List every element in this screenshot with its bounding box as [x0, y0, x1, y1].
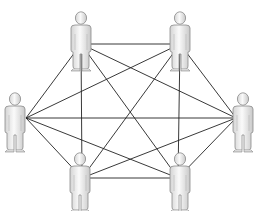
person-icon-bottom-right [170, 153, 190, 211]
edge-right-bottom-left [82, 118, 236, 178]
edge-top-left-bottom-right [81, 44, 178, 178]
edge-top-right-bottom-left [82, 44, 180, 178]
edge-top-right-left [26, 44, 180, 118]
person-icon-right [233, 93, 253, 152]
network-diagram [0, 0, 258, 211]
edge-left-bottom-right [26, 118, 178, 178]
person-icon-bottom-left [70, 153, 90, 211]
edge-top-left-right [81, 44, 236, 118]
person-icon-left [5, 93, 25, 152]
person-figures [5, 12, 253, 211]
connection-lines [26, 44, 236, 178]
